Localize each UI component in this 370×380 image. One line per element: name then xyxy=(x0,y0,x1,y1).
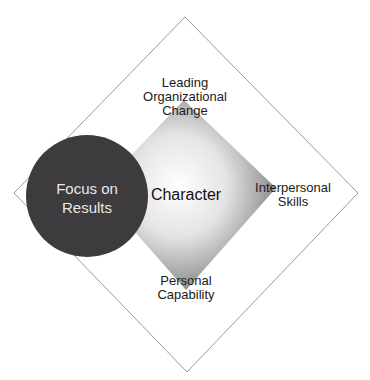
center-label: Character xyxy=(140,186,232,204)
right-label: Interpersonal Skills xyxy=(248,181,338,209)
bottom-label-line1: Personal xyxy=(136,274,236,288)
top-label-line1: Leading xyxy=(130,76,240,90)
circle-label: Focus on Results xyxy=(37,179,137,217)
right-label-line1: Interpersonal xyxy=(248,181,338,195)
circle-label-line1: Focus on xyxy=(37,179,137,198)
top-label-line3: Change xyxy=(130,104,240,118)
top-label: Leading Organizational Change xyxy=(130,76,240,118)
bottom-label: Personal Capability xyxy=(136,274,236,302)
circle-label-line2: Results xyxy=(37,198,137,217)
right-label-line2: Skills xyxy=(248,195,338,209)
top-label-line2: Organizational xyxy=(130,90,240,104)
bottom-label-line2: Capability xyxy=(136,288,236,302)
